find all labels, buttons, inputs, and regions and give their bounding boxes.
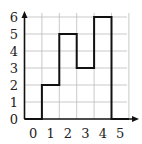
y-tick-label: 3 (10, 61, 18, 76)
y-tick-label: 0 (10, 112, 18, 127)
y-axis-arrow-icon (22, 11, 28, 18)
histogram-chart: 0123456 012345 (0, 0, 142, 144)
x-tick-labels: 012345 (29, 126, 124, 141)
x-tick-label: 0 (29, 126, 37, 141)
x-tick-label: 1 (46, 126, 54, 141)
x-tick-label: 3 (81, 126, 89, 141)
x-tick-label: 5 (116, 126, 124, 141)
y-tick-label: 5 (10, 27, 18, 42)
y-tick-label: 6 (10, 10, 18, 25)
axes (22, 11, 140, 122)
x-tick-label: 2 (64, 126, 72, 141)
y-tick-label: 4 (10, 44, 18, 59)
x-axis-arrow-icon (132, 116, 139, 122)
y-tick-labels: 0123456 (10, 10, 18, 127)
x-tick-label: 4 (99, 126, 107, 141)
y-tick-label: 2 (10, 78, 18, 93)
y-tick-label: 1 (10, 95, 18, 110)
